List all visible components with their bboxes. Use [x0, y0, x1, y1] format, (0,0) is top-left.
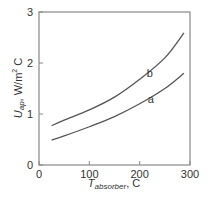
axis-ticks: 01002003000123 — [27, 6, 199, 180]
plot-frame — [39, 12, 190, 165]
y-tick-label: 0 — [27, 159, 33, 171]
x-tick-label: 300 — [181, 168, 199, 180]
data-curves — [52, 33, 184, 140]
y-tick-label: 1 — [27, 108, 33, 120]
y-axis-label: Uap, W/m2 C — [11, 58, 26, 119]
y-tick-label: 2 — [27, 57, 33, 69]
x-tick-label: 0 — [36, 168, 42, 180]
chart: 01002003000123 ab Tabsorber, C Uap, W/m2… — [0, 0, 208, 200]
curve-label-b: b — [147, 67, 153, 79]
curve-b — [52, 33, 184, 126]
y-tick-label: 3 — [27, 6, 33, 18]
curve-label-a: a — [148, 93, 155, 105]
curve-a — [52, 73, 184, 140]
curve-labels: ab — [147, 67, 155, 105]
